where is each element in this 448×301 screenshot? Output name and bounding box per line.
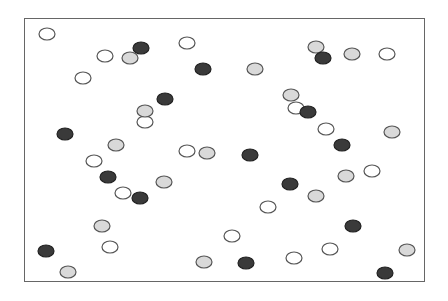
white-circle: [86, 155, 102, 167]
dark-circle: [100, 171, 116, 183]
circle-scatter: [0, 0, 448, 301]
white-circle: [318, 123, 334, 135]
dark-circle: [57, 128, 73, 140]
gray-circle: [108, 139, 124, 151]
white-circle: [179, 37, 195, 49]
white-circle: [224, 230, 240, 242]
white-circle: [102, 241, 118, 253]
gray-circle: [199, 147, 215, 159]
white-circle: [97, 50, 113, 62]
gray-circle: [196, 256, 212, 268]
white-circle: [115, 187, 131, 199]
dark-circle: [238, 257, 254, 269]
dark-circle: [300, 106, 316, 118]
white-circle: [179, 145, 195, 157]
white-circle: [286, 252, 302, 264]
gray-circle: [384, 126, 400, 138]
gray-circle: [308, 41, 324, 53]
dark-circle: [282, 178, 298, 190]
dark-circle: [334, 139, 350, 151]
gray-circle: [399, 244, 415, 256]
gray-circle: [156, 176, 172, 188]
white-circle: [75, 72, 91, 84]
dark-circle: [345, 220, 361, 232]
white-circle: [39, 28, 55, 40]
dark-circle: [157, 93, 173, 105]
gray-circle: [308, 190, 324, 202]
gray-circle: [283, 89, 299, 101]
dark-circle: [132, 192, 148, 204]
white-circle: [260, 201, 276, 213]
white-circle: [364, 165, 380, 177]
white-circle: [322, 243, 338, 255]
white-circle: [137, 116, 153, 128]
dark-circle: [315, 52, 331, 64]
white-circle: [379, 48, 395, 60]
gray-circle: [137, 105, 153, 117]
gray-circle: [338, 170, 354, 182]
dark-circle: [133, 42, 149, 54]
dark-circle: [195, 63, 211, 75]
dark-circle: [377, 267, 393, 279]
gray-circle: [247, 63, 263, 75]
dark-circle: [242, 149, 258, 161]
gray-circle: [94, 220, 110, 232]
gray-circle: [122, 52, 138, 64]
gray-circle: [60, 266, 76, 278]
dark-circle: [38, 245, 54, 257]
gray-circle: [344, 48, 360, 60]
